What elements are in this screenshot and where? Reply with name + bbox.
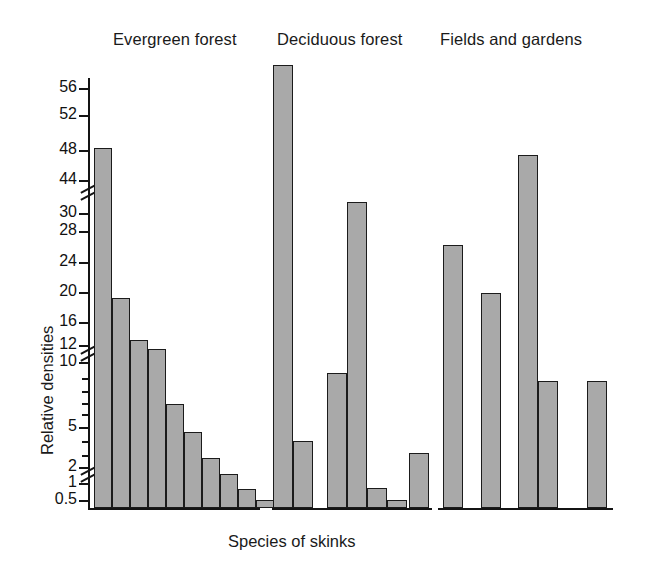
y-axis-tick-label: 24	[31, 252, 77, 270]
y-axis-tick	[79, 467, 88, 469]
y-axis-tick-label: 12	[31, 335, 77, 353]
y-axis-tick	[79, 150, 88, 152]
group-title-evergreen: Evergreen forest	[113, 30, 237, 49]
bar-fields	[443, 245, 463, 508]
y-axis-tick	[82, 455, 88, 457]
bar-evergreen	[238, 489, 256, 508]
y-axis-tick	[79, 88, 88, 90]
y-axis-tick-label: 44	[31, 170, 77, 188]
bar-fields	[481, 293, 501, 508]
y-axis-tick	[82, 414, 88, 416]
x-axis-title: Species of skinks	[228, 532, 355, 551]
bar-deciduous	[293, 441, 313, 508]
bar-deciduous	[327, 373, 347, 508]
y-axis-tick	[79, 292, 88, 294]
bar-evergreen	[256, 500, 274, 508]
group-baseline	[90, 508, 260, 510]
y-axis-tick-label: 1	[31, 473, 77, 491]
y-axis-tick	[79, 322, 88, 324]
bar-deciduous	[409, 453, 429, 508]
bar-deciduous	[387, 500, 407, 508]
y-axis-tick	[79, 362, 88, 364]
bar-evergreen	[166, 404, 184, 508]
bar-evergreen	[148, 349, 166, 508]
y-axis-tick	[79, 427, 88, 429]
y-axis-tick	[79, 180, 88, 182]
y-axis-tick	[82, 391, 88, 393]
y-axis-tick-label: 56	[31, 78, 77, 96]
bar-fields	[587, 381, 607, 508]
bar-deciduous	[347, 202, 367, 508]
y-axis-tick-label: 30	[31, 203, 77, 221]
y-axis-tick-label: 52	[31, 105, 77, 123]
y-axis-tick	[82, 441, 88, 443]
bar-evergreen	[202, 458, 220, 508]
group-title-fields: Fields and gardens	[440, 30, 582, 49]
y-axis-tick	[79, 213, 88, 215]
bar-deciduous	[273, 65, 293, 508]
group-baseline	[438, 508, 613, 510]
bar-evergreen	[130, 340, 148, 508]
group-baseline	[272, 508, 432, 510]
bar-fields	[538, 381, 558, 508]
y-axis-tick	[79, 262, 88, 264]
y-axis-tick-label: 0.5	[31, 490, 77, 508]
y-axis-tick	[79, 115, 88, 117]
y-axis-tick	[82, 378, 88, 380]
bar-evergreen	[220, 474, 238, 508]
bar-fields	[518, 155, 538, 508]
y-axis-tick-label: 28	[31, 221, 77, 239]
y-axis-tick	[79, 345, 88, 347]
chart-figure: Evergreen forest Deciduous forest Fields…	[0, 0, 648, 585]
bar-deciduous	[367, 488, 387, 508]
y-axis-tick-label: 16	[31, 312, 77, 330]
y-axis-tick-label: 48	[31, 140, 77, 158]
y-axis-tick	[82, 403, 88, 405]
group-title-deciduous: Deciduous forest	[277, 30, 402, 49]
y-axis-tick	[79, 500, 88, 502]
y-axis-line	[88, 78, 90, 510]
y-axis-tick	[79, 483, 88, 485]
y-axis-tick-label: 20	[31, 282, 77, 300]
y-axis-tick-label: 5	[31, 417, 77, 435]
bar-evergreen	[112, 298, 130, 508]
bar-evergreen	[184, 432, 202, 508]
y-axis-tick	[79, 231, 88, 233]
y-axis-tick-label: 10	[31, 352, 77, 370]
bar-evergreen	[94, 148, 112, 508]
